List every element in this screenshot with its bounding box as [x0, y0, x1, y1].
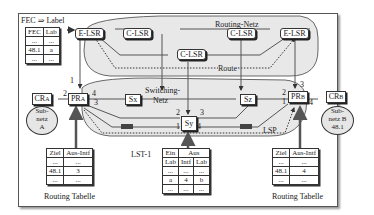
pr-b: PRB	[288, 91, 308, 103]
lst-label: LST-1	[131, 150, 151, 159]
port-label: 2	[63, 89, 67, 98]
lsp-label: LSP	[263, 126, 277, 135]
lst-table: EinAus LabIntfLab ......... a4b ........…	[162, 148, 210, 194]
port-label: 4	[309, 98, 313, 107]
port-label: 2	[176, 108, 180, 117]
switch-sy: Sy	[181, 116, 197, 131]
port-label: 1	[282, 97, 286, 106]
cr-b: CRB	[326, 91, 346, 103]
switching-net-label-1: Switching-	[145, 86, 180, 95]
subnet-a: Sub-netzA	[26, 106, 58, 135]
port-label: 3	[94, 98, 98, 107]
port-label: 3	[200, 108, 204, 117]
port-label: 2	[282, 88, 286, 97]
port-label: 1	[70, 76, 74, 85]
routing-table-b: ZielAus-Intf ...... 48.14 ......	[272, 148, 319, 185]
fec-table: FECLab ...... 48.1a ......	[25, 27, 60, 64]
routing-table-b-caption: Routing Tabelle	[272, 192, 323, 201]
routing-table-a-caption: Routing Tabelle	[44, 192, 95, 201]
route-label: Route	[218, 64, 237, 73]
c-lsr-2: C-LSR	[177, 49, 206, 60]
c-lsr-1: C-LSR	[123, 28, 152, 39]
pr-a: PRA	[68, 93, 88, 105]
cr-a: CRA	[32, 93, 52, 105]
e-lsr-right: E-LSR	[280, 28, 309, 39]
port-label: 1	[176, 122, 180, 131]
e-lsr-left: E-LSR	[75, 28, 104, 39]
routing-net-region	[84, 16, 318, 76]
fec-label-title: FEC ⇒ Label	[21, 16, 65, 25]
switch-sx: Sx	[125, 94, 141, 105]
port-label: 4	[197, 122, 201, 131]
switching-net-label-2: Netz	[153, 96, 168, 105]
c-lsr-3: C-LSR	[227, 28, 256, 39]
routing-table-a: ZielAus-Intf ...... 48.13 ......	[46, 148, 93, 185]
port-label: 4	[92, 89, 96, 98]
switch-sz: Sz	[240, 94, 256, 105]
port-label: 3	[300, 80, 304, 89]
subnet-b: Sub-netz B48.1	[321, 106, 354, 135]
